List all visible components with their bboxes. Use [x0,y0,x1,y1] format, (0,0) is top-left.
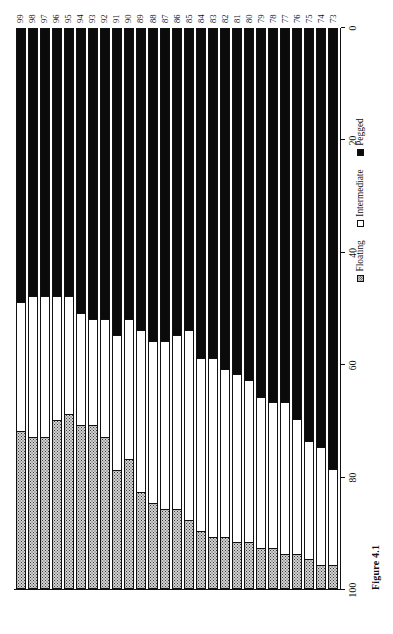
bar-segment-pegged [161,29,169,341]
legend: FloatingIntermediatePegged [355,118,365,282]
bar-row [292,28,302,589]
bar-row [88,28,98,589]
bar-segment-pegged [77,29,85,313]
bar-segment-floating [257,548,265,588]
bar-segment-floating [125,459,133,588]
bar-segment-pegged [221,29,229,369]
bar-segment-pegged [305,29,313,441]
bar-segment-floating [245,542,253,588]
bar-segment-floating [305,559,313,588]
legend-item-intermediate: Intermediate [355,169,365,227]
value-axis-tick [341,252,345,253]
bar-segment-pegged [53,29,61,296]
bar-segment-floating [269,548,277,588]
bar-segment-intermediate [245,380,253,543]
rotated-figure-stage: 100806040200 999897969594939291908988878… [0,0,393,634]
bar-segment-intermediate [101,319,109,437]
bar-segment-floating [77,425,85,588]
bar-segment-floating [197,531,205,588]
bar-row [64,28,74,589]
bar-segment-floating [161,509,169,588]
category-axis-label: 79 [257,2,267,28]
category-axis-label: 90 [124,2,134,28]
category-axis-label: 95 [64,2,74,28]
bar-segment-pegged [293,29,301,419]
category-axis-label: 74 [317,2,327,28]
bar-segment-floating [293,554,301,588]
category-axis-label: 81 [233,2,243,28]
bar-row [148,28,158,589]
bar-segment-floating [329,565,337,588]
bar-segment-pegged [281,29,289,402]
bar-segment-floating [221,537,229,588]
bar-segment-intermediate [113,335,121,470]
category-axis-label: 76 [293,2,303,28]
bar-segment-intermediate [293,419,301,554]
value-axis-tick [341,364,345,365]
plot-area [14,28,341,590]
bar-row [316,28,326,589]
bar-segment-floating [317,565,325,588]
category-axis-label: 91 [112,2,122,28]
bar-row [256,28,266,589]
bar-segment-pegged [233,29,241,374]
bar-row [100,28,110,589]
category-axis-label: 75 [305,2,315,28]
bar-segment-intermediate [125,319,133,459]
category-axis-label: 85 [185,2,195,28]
category-axis-label: 92 [100,2,110,28]
bar-row [112,28,122,589]
bar-row [40,28,50,589]
category-axis: 9998979695949392919089888786858483828180… [14,2,341,28]
bar-segment-intermediate [65,296,73,414]
bar-segment-floating [209,537,217,588]
bar-segment-pegged [17,29,25,302]
bar-segment-pegged [113,29,121,335]
bar-segment-intermediate [185,330,193,520]
bar-segment-pegged [65,29,73,296]
value-axis-label: 80 [348,473,358,483]
legend-label: Floating [355,240,365,271]
value-axis: 100806040200 [341,28,375,590]
bar-segment-intermediate [77,313,85,425]
bar-segment-pegged [245,29,253,380]
bar-segment-intermediate [281,402,289,553]
value-axis-label: 0 [348,26,358,31]
bar-segment-intermediate [53,296,61,420]
bar-segment-pegged [173,29,181,335]
category-axis-label: 94 [76,2,86,28]
legend-swatch-icon [357,220,364,227]
category-axis-label: 86 [173,2,183,28]
bar-segment-floating [233,542,241,588]
value-axis-tick [341,477,345,478]
bar-stack-container [14,28,340,589]
bar-segment-intermediate [161,341,169,509]
legend-item-pegged: Pegged [355,118,365,156]
category-axis-label: 73 [329,2,339,28]
category-axis-label: 87 [161,2,171,28]
legend-label: Intermediate [355,169,365,216]
bar-row [76,28,86,589]
category-axis-label: 88 [149,2,159,28]
bar-row [208,28,218,589]
legend-label: Pegged [355,118,365,146]
bar-segment-floating [137,492,145,588]
category-axis-label: 83 [209,2,219,28]
bar-row [328,28,338,589]
category-axis-label: 78 [269,2,279,28]
bar-segment-pegged [209,29,217,358]
value-axis-tick [341,139,345,140]
bar-segment-intermediate [221,369,229,537]
bar-segment-intermediate [137,330,145,493]
bar-segment-intermediate [149,341,157,504]
category-axis-label: 98 [28,2,38,28]
bar-segment-floating [65,414,73,588]
bar-segment-intermediate [17,302,25,431]
category-axis-label: 82 [221,2,231,28]
category-axis-label: 97 [40,2,50,28]
bar-segment-pegged [41,29,49,296]
value-axis-label: 100 [348,583,358,598]
bar-row [280,28,290,589]
value-axis-tick [341,27,345,28]
bar-row [160,28,170,589]
